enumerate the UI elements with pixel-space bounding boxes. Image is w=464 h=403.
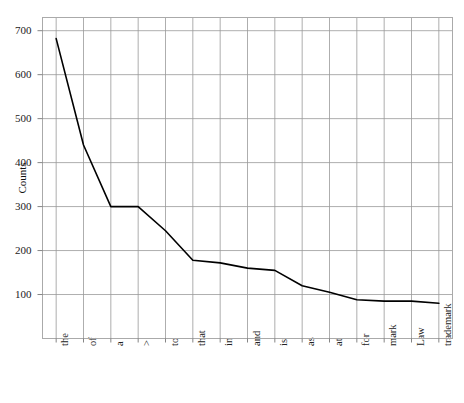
chart-figure: Counts 100200300400500600700 theofa>toth…	[0, 0, 464, 403]
grid-lines	[43, 18, 453, 339]
chart-plot-area	[0, 0, 464, 403]
